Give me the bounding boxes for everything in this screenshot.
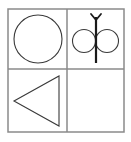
matrix-figure [0,0,131,142]
cell-top-left[interactable] [9,10,66,68]
cell-top-left-hitarea[interactable] [9,10,66,68]
empty-answer-cell[interactable] [68,70,123,131]
cell-bottom-right[interactable] [68,70,123,131]
cell-top-right[interactable] [68,10,123,68]
cell-bottom-left-hitarea[interactable] [9,70,66,131]
cell-bottom-left[interactable] [9,70,66,131]
puzzle-canvas [0,0,131,142]
